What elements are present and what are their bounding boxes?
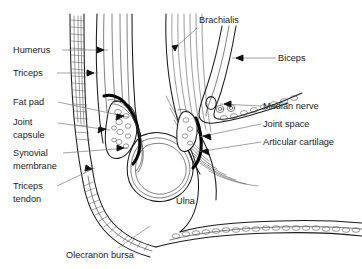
label-olecranon-bursa: Olecranon bursa <box>66 250 135 260</box>
label-ulna: Ulna <box>176 196 196 206</box>
label-biceps: Biceps <box>278 53 306 63</box>
label-triceps-tendon: Triceps <box>13 181 43 191</box>
label-triceps-tendon-line2: tendon <box>13 194 41 204</box>
label-brachialis: Brachialis <box>199 15 239 25</box>
label-joint-capsule-line2: capsule <box>13 130 45 140</box>
label-triceps: Triceps <box>13 68 43 78</box>
label-joint-space: Joint space <box>263 119 309 129</box>
elbow-sagittal-section-svg: HumerusTricepsFat padJointcapsuleSynovia… <box>0 0 362 269</box>
label-synovial-membrane: Synovial <box>13 148 48 158</box>
label-median-nerve: Median nerve <box>263 101 319 111</box>
label-synovial-membrane-line2: membrane <box>13 161 57 171</box>
label-articular-cartilage: Articular cartilage <box>263 137 334 147</box>
label-joint-capsule: Joint <box>13 117 33 127</box>
anatomical-diagram: HumerusTricepsFat padJointcapsuleSynovia… <box>0 0 362 269</box>
label-fat-pad: Fat pad <box>13 97 44 107</box>
label-humerus: Humerus <box>13 45 51 55</box>
